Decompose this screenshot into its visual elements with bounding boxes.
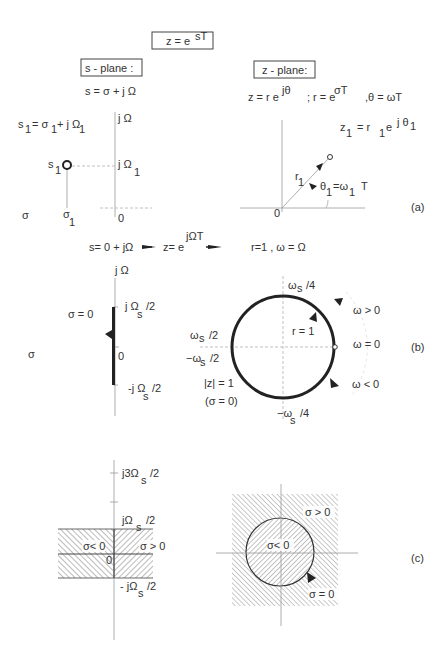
svg-text:- jΩ: - jΩ [120, 580, 137, 592]
tick-label-neg-jomega-s-half: -j Ω s /2 [128, 382, 161, 402]
svg-text:; r = e: ; r = e [307, 91, 335, 103]
svg-text:z - plane:: z - plane: [262, 64, 307, 76]
tick-label-j3omega-s-half: j3Ω s /2 [121, 467, 159, 486]
svg-text:s: s [48, 158, 54, 170]
origin-label: 0 [118, 350, 124, 362]
svg-text:s: s [297, 282, 303, 294]
label-omega-zero: ω = 0 [353, 338, 380, 350]
sigma-zero-label: σ = 0 [68, 308, 93, 320]
sigma-zero-note: (σ = 0) [205, 395, 238, 407]
svg-text:/4: /4 [300, 407, 309, 419]
arrow-icon [334, 298, 343, 306]
origin-label: 0 [274, 207, 280, 219]
mapping-formula-exp: sT [195, 30, 208, 42]
svg-text:=ω: =ω [333, 180, 348, 192]
svg-text:= r: = r [357, 121, 370, 133]
svg-text:/2: /2 [209, 329, 218, 341]
svg-text:/2: /2 [146, 514, 155, 526]
point-z1 [328, 155, 333, 160]
tick-label-neg-jomega-s-half: - jΩ s /2 [120, 580, 156, 599]
point-omega-zero [333, 345, 338, 350]
panel-label-a: (a) [411, 201, 424, 213]
panel-c-z-plane: σ > 0 σ< 0 σ = 0 (c) [216, 484, 424, 626]
axis-label-jomega: j Ω [114, 264, 129, 276]
region-label-sigma-positive: σ > 0 [140, 540, 165, 552]
angle-label-theta1: θ 1 =ω 1 T [320, 180, 368, 198]
unit-circle-label: |z| = 1 [204, 377, 234, 389]
label-neg-omega-s-quarter: −ω s /4 [277, 407, 309, 426]
panel-b-z-plane: ω s /4 r = 1 ω = 0 ω > 0 ω < 0 ω s /2 −ω… [186, 276, 424, 426]
svg-text:s - plane :: s - plane : [85, 62, 133, 74]
label-omega-positive: ω > 0 [353, 304, 380, 316]
arrow-icon [330, 378, 339, 388]
svg-text:ω: ω [190, 329, 199, 341]
panel-label-c: (c) [411, 552, 424, 564]
svg-text:1: 1 [298, 176, 304, 188]
arrow-icon [309, 312, 317, 322]
svg-text:T: T [361, 180, 368, 192]
svg-text:1: 1 [79, 123, 85, 135]
mapping-formula-base: z = e [166, 35, 190, 47]
z-plane-definition: z = r e jθ ; r = e σT ,θ = ωT [248, 84, 402, 103]
panel-c-s-plane: j3Ω s /2 jΩ s /2 σ< 0 σ > 0 0 - jΩ s /2 [58, 460, 165, 640]
panel-b-s-plane: j Ω j Ω s /2 σ = 0 σ 0 -j Ω s /2 [28, 264, 161, 416]
axis-label-sigma: σ [22, 209, 29, 221]
svg-text:1: 1 [25, 123, 31, 135]
tick-label-jomega-s-half: j Ω s /2 [124, 300, 155, 320]
svg-text:/4: /4 [306, 279, 315, 291]
svg-text:/2: /2 [147, 580, 156, 592]
svg-text:+ j Ω: + j Ω [57, 118, 80, 130]
svg-text:1: 1 [326, 186, 332, 198]
svg-text:1: 1 [379, 127, 385, 139]
axis-label-sigma: σ [28, 348, 35, 360]
s-plane-title: s - plane : [81, 59, 142, 76]
svg-text:1: 1 [134, 166, 140, 178]
svg-text:e: e [386, 121, 392, 133]
svg-text:1: 1 [346, 127, 352, 139]
arrow-icon [316, 163, 323, 171]
point-s1 [63, 161, 71, 169]
arrow-icon [309, 183, 317, 190]
panel-a-s-plane: j Ω j Ω 1 s 1 s 1 = σ 1 + j Ω 1 σ σ 1 0 [18, 112, 152, 228]
origin-label: 0 [106, 554, 112, 566]
svg-text:jΩ: jΩ [121, 514, 133, 526]
region-label-sigma-positive: σ > 0 [305, 506, 330, 518]
z-plane-title: z - plane: [254, 61, 315, 78]
svg-text:/2: /2 [210, 352, 219, 364]
label-omega-negative: ω < 0 [352, 378, 379, 390]
svg-text:1: 1 [349, 186, 355, 198]
svg-text:/2: /2 [150, 467, 159, 479]
boundary-label-sigma-zero: σ = 0 [309, 588, 334, 600]
svg-text:j Ω: j Ω [117, 158, 132, 170]
svg-text:s: s [138, 587, 144, 599]
svg-text:j θ: j θ [396, 116, 409, 128]
region-label-sigma-negative: σ< 0 [83, 540, 105, 552]
label-neg-omega-s-half: −ω s /2 [186, 352, 219, 368]
svg-text:s: s [137, 308, 143, 320]
mapping-formula-box: z = e sT [152, 30, 213, 49]
svg-text:z= e: z= e [163, 241, 184, 253]
point-definition-s1: s 1 = σ 1 + j Ω 1 [18, 118, 85, 135]
svg-text:s: s [199, 332, 205, 344]
svg-text:s= 0 + jΩ: s= 0 + jΩ [89, 241, 133, 253]
svg-text:j3Ω: j3Ω [121, 467, 139, 479]
tick-label-sigma1: σ 1 [63, 208, 75, 228]
svg-text:σT: σT [334, 84, 348, 96]
axis-label-jomega: j Ω [117, 112, 132, 124]
svg-text:jθ: jθ [281, 84, 291, 96]
angle-arc [326, 200, 328, 208]
panel-a-z-plane: z 1 = r 1 e j θ 1 r 1 θ 1 =ω 1 T 0 (a) [240, 116, 424, 219]
svg-text:/2: /2 [152, 382, 161, 394]
svg-text:s: s [143, 390, 149, 402]
svg-text:1: 1 [55, 164, 61, 176]
arrow-icon [105, 330, 112, 339]
svg-text:s: s [18, 118, 24, 130]
panel-label-b: (b) [411, 341, 424, 353]
svg-text:/2: /2 [146, 300, 155, 312]
svg-text:= σ: = σ [32, 118, 48, 130]
radius-label-r1: r 1 [295, 170, 304, 188]
unit-circle-region [246, 518, 314, 586]
svg-text:s: s [141, 474, 147, 486]
svg-text:s: s [136, 521, 142, 533]
svg-text:,θ = ωT: ,θ = ωT [365, 91, 402, 103]
